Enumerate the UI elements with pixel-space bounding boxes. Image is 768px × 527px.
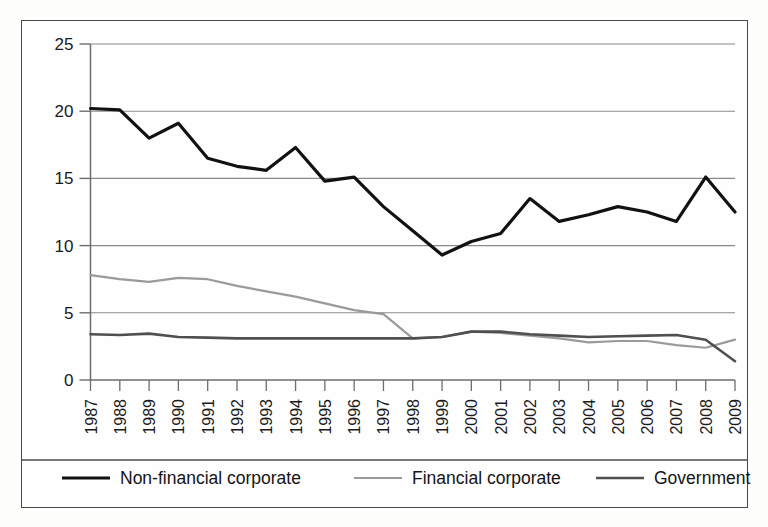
x-tick-label: 2005 [610, 399, 627, 435]
x-tick-label: 2009 [727, 399, 744, 435]
x-tick-label: 1997 [375, 399, 392, 435]
chart-figure: 0510152025198719881989199019911992199319… [0, 0, 768, 527]
series-line [91, 332, 736, 362]
x-tick-label: 1989 [141, 399, 158, 435]
x-tick-label: 2003 [551, 399, 568, 435]
x-tick-label: 2006 [639, 399, 656, 435]
y-tick-label: 15 [55, 169, 74, 188]
x-tick-label: 1993 [258, 399, 275, 435]
x-tick-label: 1994 [288, 399, 305, 435]
x-tick-label: 1999 [434, 399, 451, 435]
line-chart: 0510152025198719881989199019911992199319… [0, 0, 768, 527]
x-tick-label: 2007 [668, 399, 685, 435]
x-axis: 1987198819891990199119921993199419951996… [83, 380, 745, 435]
x-tick-label: 1988 [112, 399, 129, 435]
x-tick-label: 1992 [229, 399, 246, 435]
y-tick-label: 5 [64, 304, 73, 323]
x-tick-label: 2001 [493, 399, 510, 435]
y-tick-label: 25 [55, 35, 74, 54]
legend-label: Financial corporate [412, 468, 561, 488]
x-tick-label: 1990 [170, 399, 187, 435]
y-tick-label: 10 [55, 237, 74, 256]
series-line [91, 109, 736, 256]
series-group [91, 109, 736, 362]
x-tick-label: 1998 [405, 399, 422, 435]
x-tick-label: 1987 [83, 399, 100, 435]
legend-label: Non-financial corporate [120, 468, 301, 488]
legend: Non-financial corporateFinancial corpora… [62, 468, 750, 488]
x-tick-label: 2008 [698, 399, 715, 435]
y-tick-label: 0 [64, 371, 73, 390]
x-tick-label: 2000 [463, 399, 480, 435]
x-tick-label: 1996 [346, 399, 363, 435]
x-tick-label: 2002 [522, 399, 539, 435]
x-tick-label: 1991 [200, 399, 217, 435]
legend-label: Government [654, 468, 750, 488]
x-tick-label: 1995 [317, 399, 334, 435]
y-tick-label: 20 [55, 102, 74, 121]
x-tick-label: 2004 [581, 399, 598, 435]
